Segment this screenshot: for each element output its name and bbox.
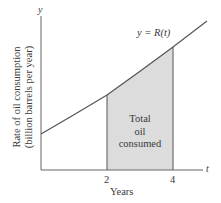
shaded-region-label: Total oil consumed xyxy=(107,113,173,151)
y-axis-title: Rate of oil consumption (billion barrels… xyxy=(11,46,35,148)
y-axis-title-line2: (billion barrels per year) xyxy=(23,46,35,148)
region-label-line2: oil xyxy=(107,126,173,139)
y-axis-symbol: y xyxy=(38,5,42,15)
region-label-line1: Total xyxy=(107,113,173,126)
x-tick-label-4: 4 xyxy=(170,175,175,186)
region-label-line3: consumed xyxy=(107,138,173,151)
curve-label: y = R(t) xyxy=(137,28,170,39)
chart-figure: y t y = R(t) 2 4 Years Rate of oil consu… xyxy=(0,0,221,203)
x-axis-title: Years xyxy=(110,187,133,198)
shaded-area-total-oil xyxy=(107,47,173,170)
y-axis-title-line1: Rate of oil consumption xyxy=(11,46,23,148)
x-tick-label-2: 2 xyxy=(104,175,109,186)
t-axis-symbol: t xyxy=(206,164,209,174)
